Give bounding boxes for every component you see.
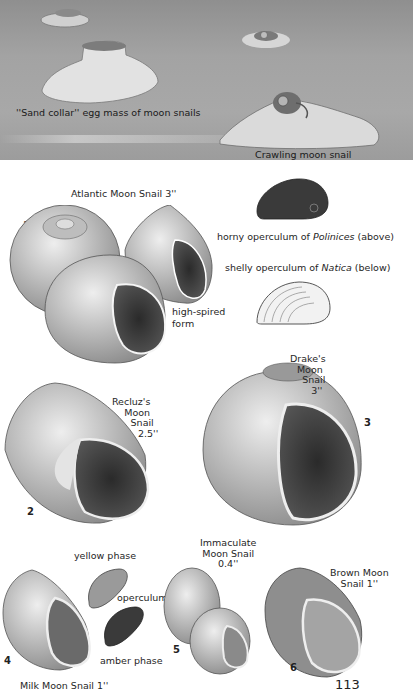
sand-flat-illustration: ''Sand collar'' egg mass of moon snails … [0, 0, 413, 160]
plate-number-3: 3 [364, 417, 371, 428]
operculum-amber-phase [100, 604, 146, 648]
label-yellow-phase: yellow phase [74, 550, 136, 561]
label-atlantic-moon-snail: Atlantic Moon Snail 3'' [71, 188, 176, 199]
caption-crawling-snail: Crawling moon snail [255, 149, 351, 160]
atlantic-moon-snail-shells [5, 205, 215, 365]
label-drake-moon-snail: Drake's Moon Snail 3'' [290, 354, 326, 396]
milk-moon-snail-shell [0, 568, 95, 673]
caption-horny-operculum: horny operculum of Polinices (above) [217, 231, 394, 242]
immaculate-moon-snail-shells [162, 566, 257, 678]
plate-number-6: 6 [290, 662, 297, 673]
plate-number-2: 2 [27, 506, 34, 517]
plate-number-5: 5 [173, 644, 180, 655]
horny-operculum-polinices [252, 175, 332, 223]
label-brown-moon-snail: Brown Moon Snail 1'' [330, 568, 389, 589]
page-number: 113 [335, 677, 360, 692]
drake-moon-snail-shell [198, 360, 368, 530]
label-operculum: operculum [117, 592, 168, 603]
caption-shelly-operculum: shelly operculum of Natica (below) [225, 262, 390, 273]
label-immaculate-moon-snail: Immaculate Moon Snail 0.4'' [200, 538, 256, 570]
label-high-spired-form: high-spired form [172, 306, 232, 330]
label-amber-phase: amber phase [100, 655, 163, 666]
shelly-operculum-natica [254, 278, 334, 328]
caption-sand-collar: ''Sand collar'' egg mass of moon snails [16, 107, 200, 118]
label-recluz-moon-snail: Recluz's Moon Snail 2.5'' [104, 397, 158, 439]
scene-drawing [0, 0, 413, 160]
plate-number-4: 4 [4, 655, 11, 666]
label-milk-moon-snail: Milk Moon Snail 1'' [20, 680, 108, 691]
